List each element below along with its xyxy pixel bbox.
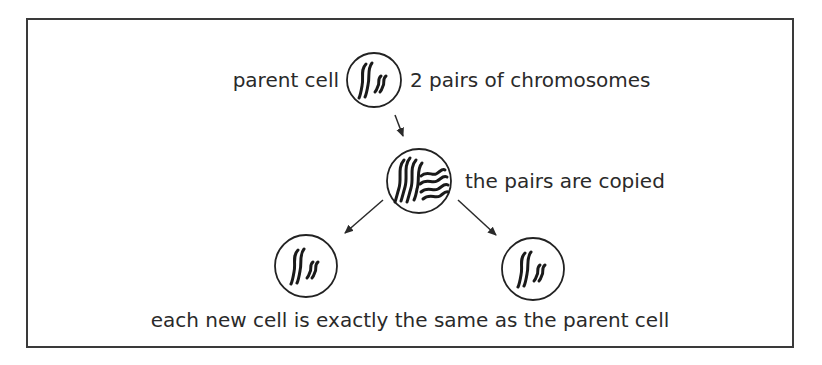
chromosome-pairs-label: 2 pairs of chromosomes bbox=[410, 68, 651, 92]
parent-cell-label: parent cell bbox=[233, 68, 339, 92]
arrow-right bbox=[458, 200, 496, 235]
daughter-cell-left bbox=[275, 235, 337, 297]
arrow-down bbox=[395, 115, 403, 136]
mitosis-diagram: parent cell 2 pairs of chromosomes the p… bbox=[0, 0, 822, 365]
copied-cell bbox=[387, 149, 451, 213]
arrow-left bbox=[345, 200, 383, 233]
copied-label: the pairs are copied bbox=[465, 169, 665, 193]
result-label: each new cell is exactly the same as the… bbox=[151, 308, 670, 332]
parent-cell bbox=[347, 53, 401, 107]
daughter-cell-right bbox=[502, 238, 564, 300]
